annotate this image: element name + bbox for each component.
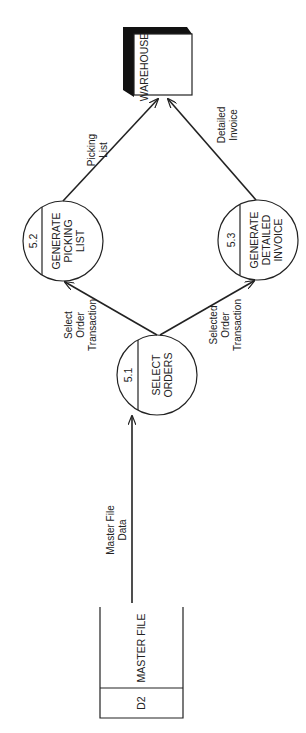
flow-label: List (98, 142, 109, 158)
process-name-line: GENERATE (50, 213, 62, 270)
process-5-3-generate-detailed-invoice: 5.3 GENERATE DETAILED INVOICE (218, 200, 298, 280)
process-name-line: LIST (74, 229, 86, 252)
process-id: 5.1 (122, 368, 134, 383)
flow-label: Order (75, 312, 86, 338)
flow-detailed-invoice: Detailed Invoice (168, 99, 256, 200)
flow-arrow (168, 99, 256, 200)
flow-label: Transaction (87, 299, 98, 351)
process-id: 5.3 (225, 233, 237, 248)
flow-label: Master File (105, 505, 116, 555)
process-name-line: SELECT (150, 354, 162, 395)
data-store-master-file: D2 MASTER FILE (100, 607, 183, 718)
flow-label: Selected (208, 306, 219, 345)
flow-label: Detailed (216, 107, 227, 144)
dfd-canvas: D2 MASTER FILE Master File Data 5.1 SELE… (0, 0, 306, 733)
process-name-line: DETAILED (260, 214, 272, 265)
external-entity-warehouse: WAREHOUSE (123, 27, 192, 101)
process-id: 5.2 (27, 234, 39, 249)
flow-master-file-data: Master File Data (105, 416, 132, 603)
flow-label: Order (220, 312, 231, 338)
flow-label: Picking (86, 134, 97, 166)
process-5-2-generate-picking-list: 5.2 GENERATE PICKING LIST (23, 201, 103, 281)
process-name-line: PICKING (62, 219, 74, 262)
data-store-name: MASTER FILE (135, 614, 147, 683)
process-5-1-select-orders: 5.1 SELECT ORDERS (117, 335, 197, 415)
process-name-line: INVOICE (272, 218, 284, 261)
flow-label: Data (117, 519, 128, 541)
flow-label: Invoice (228, 109, 239, 141)
process-name-line: GENERATE (248, 212, 260, 269)
flow-arrow (63, 99, 158, 201)
flow-picking-list: Picking List (63, 99, 158, 201)
process-name-line: ORDERS (162, 353, 174, 398)
data-store-id: D2 (135, 696, 147, 710)
flow-label: Select (63, 311, 74, 339)
entity-name: WAREHOUSE (138, 33, 150, 101)
flow-label: Transaction (232, 299, 243, 351)
